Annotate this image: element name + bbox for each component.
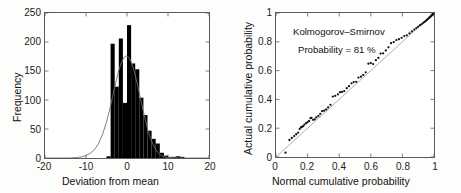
qq-xtick-0: 0 [261, 162, 289, 172]
qq-xtick-02: 0.2 [293, 162, 321, 172]
hist-xtick-20: 20 [196, 162, 224, 172]
qq-xaxis-title: Normal cumulative probability [272, 176, 410, 187]
hist-xtick-0: 0 [113, 162, 141, 172]
histogram-canvas [45, 13, 209, 158]
qq-xtick-08: 0.8 [389, 162, 417, 172]
histogram-plot-area [44, 12, 210, 159]
hist-xtick-neg10: -10 [72, 162, 100, 172]
figure-container: 250 200 150 100 50 0 -20 -10 0 10 20 Dev… [0, 0, 461, 193]
hist-ytick-200: 200 [14, 37, 41, 47]
qq-xtick-1: 1 [421, 162, 449, 172]
hist-xtick-10: 10 [154, 162, 182, 172]
hist-xtick-neg20: -20 [30, 162, 58, 172]
ks-test-label: Kolmogorov–Smirnov [293, 25, 385, 39]
histogram-yaxis-title: Frequency [12, 72, 23, 122]
qq-yaxis-title: Actual cumulative probability [243, 22, 254, 155]
qq-ytick-1: 1 [245, 8, 272, 18]
qq-xtick-06: 0.6 [357, 162, 385, 172]
ks-probability-label: Probability = 81 % [298, 43, 376, 57]
hist-ytick-250: 250 [14, 8, 41, 18]
qq-panel: Kolmogorov–Smirnov Probability = 81 % 1 … [230, 0, 461, 193]
qq-xtick-04: 0.4 [325, 162, 353, 172]
histogram-xaxis-title: Deviation from mean [62, 176, 159, 187]
histogram-panel: 250 200 150 100 50 0 -20 -10 0 10 20 Dev… [0, 0, 230, 193]
hist-ytick-50: 50 [14, 125, 41, 135]
